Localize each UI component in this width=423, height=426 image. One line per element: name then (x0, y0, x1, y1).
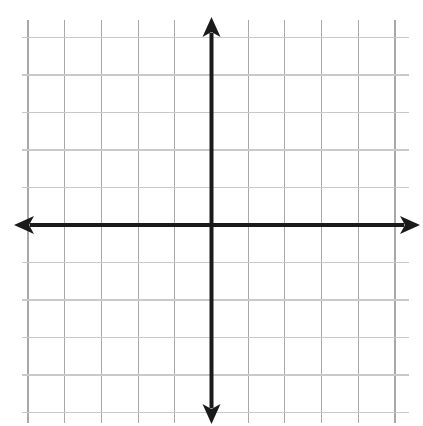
coordinate-plane-figure (0, 0, 423, 426)
coordinate-plane-canvas (0, 0, 423, 426)
